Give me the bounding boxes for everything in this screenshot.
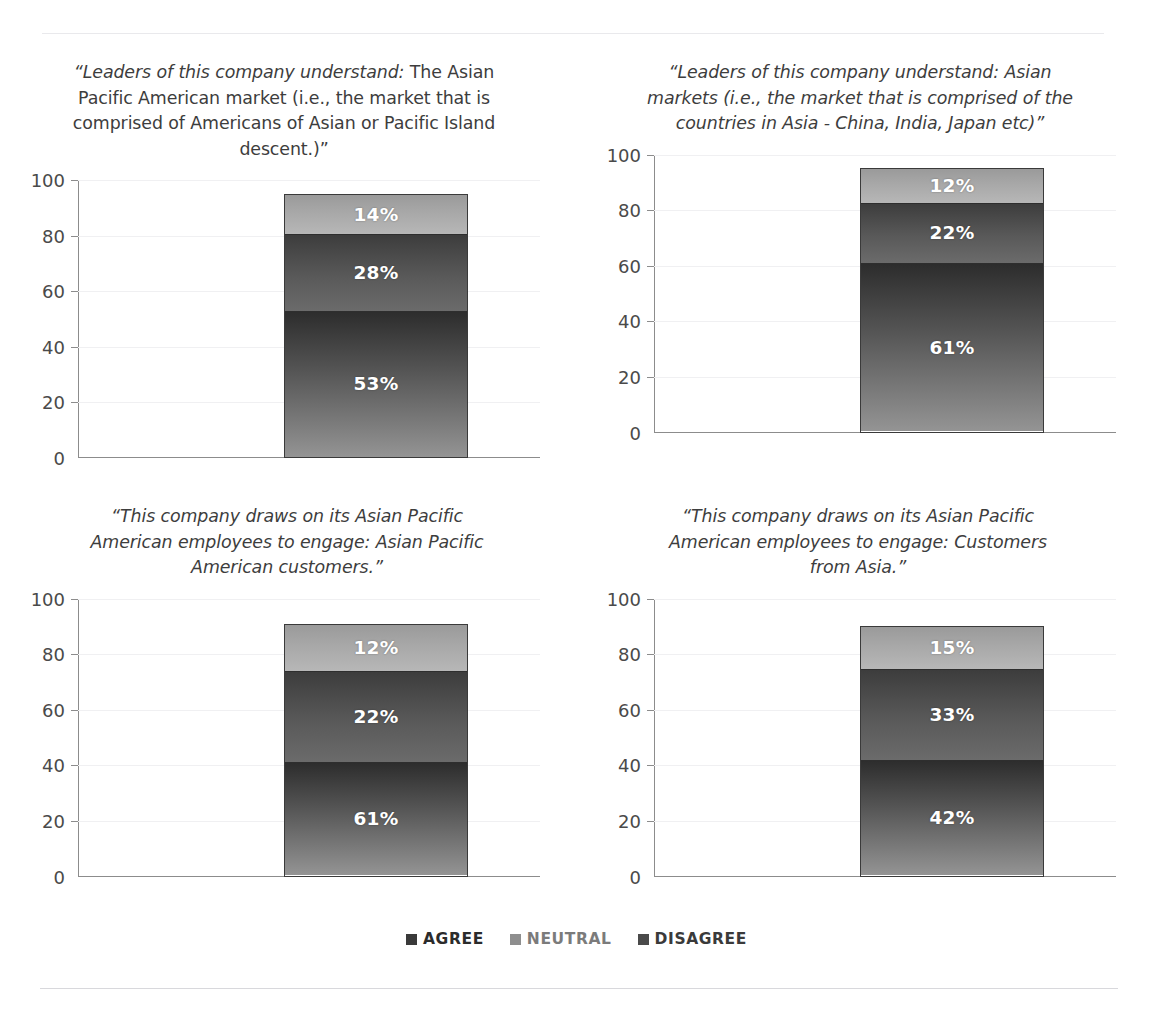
segment-divider [285, 311, 468, 312]
gridline-100 [654, 599, 1116, 600]
chart-title-1: “Leaders of this company understand: The… [0, 44, 576, 162]
legend-swatch-agree-icon [406, 934, 417, 945]
bar-segment-disagree-4[interactable]: 33% [861, 669, 1044, 760]
chart-row-top: “Leaders of this company understand: The… [0, 44, 1153, 490]
bar-segment-label-agree-3: 61% [354, 808, 399, 829]
y-axis-line-3 [78, 599, 79, 877]
bar-segment-label-neutral-3: 12% [354, 637, 399, 658]
bar-segment-label-disagree-2: 22% [930, 222, 975, 243]
plot-area-3: 100 80 60 40 20 0 12% 22% 61% [0, 589, 576, 909]
bar-segment-neutral-1[interactable]: 14% [285, 195, 468, 234]
ytick-40 [71, 765, 78, 766]
ytick-label-20: 20 [42, 392, 65, 413]
ytick-20 [647, 821, 654, 822]
ytick-20 [71, 821, 78, 822]
ytick-label-0: 0 [54, 448, 65, 469]
bar-segment-neutral-4[interactable]: 15% [861, 627, 1044, 668]
chart-legend: AGREE NEUTRAL DISAGREE [0, 930, 1153, 948]
ytick-label-20: 20 [42, 810, 65, 831]
legend-swatch-disagree-icon [638, 934, 649, 945]
bar-segment-label-disagree-4: 33% [930, 704, 975, 725]
ytick-label-100: 100 [31, 588, 65, 609]
legend-item-neutral[interactable]: NEUTRAL [510, 930, 612, 948]
ytick-label-100: 100 [31, 170, 65, 191]
plot-area-4: 100 80 60 40 20 0 15% 33% 42% [576, 589, 1152, 909]
legend-item-disagree[interactable]: DISAGREE [638, 930, 747, 948]
ytick-80 [647, 210, 654, 211]
ytick-label-40: 40 [42, 755, 65, 776]
segment-divider [861, 760, 1044, 761]
y-axis-line-1 [78, 180, 79, 458]
stacked-bar-2[interactable]: 12% 22% 61% [860, 168, 1045, 432]
bar-segment-agree-2[interactable]: 61% [861, 263, 1044, 431]
ytick-20 [647, 377, 654, 378]
plot-inner-3: 100 80 60 40 20 0 12% 22% 61% [78, 599, 540, 877]
ytick-80 [71, 654, 78, 655]
ytick-100 [71, 599, 78, 600]
ytick-100 [647, 155, 654, 156]
ytick-label-80: 80 [618, 644, 641, 665]
bar-segment-label-agree-1: 53% [354, 373, 399, 394]
bar-segment-agree-3[interactable]: 61% [285, 762, 468, 875]
ytick-60 [71, 291, 78, 292]
ytick-60 [647, 266, 654, 267]
ytick-40 [647, 765, 654, 766]
legend-label-agree: AGREE [423, 930, 484, 948]
plot-area-1: 100 80 60 40 20 0 14% 28% 53% [0, 170, 576, 490]
ytick-40 [71, 347, 78, 348]
bar-segment-disagree-3[interactable]: 22% [285, 671, 468, 762]
bar-segment-label-agree-2: 61% [930, 337, 975, 358]
y-axis-line-2 [654, 155, 655, 433]
plot-inner-1: 100 80 60 40 20 0 14% 28% 53% [78, 180, 540, 458]
bar-segment-neutral-2[interactable]: 12% [861, 169, 1044, 202]
chart-panel-3: “This company draws on its Asian Pacific… [0, 490, 576, 909]
bar-segment-label-neutral-2: 12% [930, 175, 975, 196]
bottom-rule [40, 988, 1118, 989]
stacked-bar-4[interactable]: 15% 33% 42% [860, 626, 1045, 876]
bar-segment-label-disagree-3: 22% [354, 706, 399, 727]
ytick-label-60: 60 [42, 699, 65, 720]
gridline-100 [78, 180, 540, 181]
legend-label-neutral: NEUTRAL [527, 930, 612, 948]
chart-grid: “Leaders of this company understand: The… [0, 44, 1153, 909]
survey-chart-page: “Leaders of this company understand: The… [0, 0, 1153, 1021]
chart-title-4: “This company draws on its Asian Pacific… [576, 490, 1152, 581]
bar-segment-neutral-3[interactable]: 12% [285, 625, 468, 672]
gridline-100 [78, 599, 540, 600]
segment-divider [861, 263, 1044, 264]
y-axis-line-4 [654, 599, 655, 877]
ytick-60 [71, 710, 78, 711]
ytick-20 [71, 402, 78, 403]
bar-segment-label-agree-4: 42% [930, 807, 975, 828]
segment-divider [285, 234, 468, 235]
ytick-40 [647, 321, 654, 322]
ytick-label-80: 80 [618, 200, 641, 221]
legend-swatch-neutral-icon [510, 934, 521, 945]
chart-row-bottom: “This company draws on its Asian Pacific… [0, 490, 1153, 909]
bar-segment-disagree-1[interactable]: 28% [285, 234, 468, 311]
ytick-100 [71, 180, 78, 181]
bar-segment-agree-1[interactable]: 53% [285, 311, 468, 457]
bar-segment-label-disagree-1: 28% [354, 262, 399, 283]
chart-panel-1: “Leaders of this company understand: The… [0, 44, 576, 490]
top-rule [42, 33, 1104, 34]
legend-item-agree[interactable]: AGREE [406, 930, 484, 948]
ytick-label-100: 100 [607, 588, 641, 609]
segment-divider [861, 669, 1044, 670]
ytick-80 [71, 236, 78, 237]
bar-segment-agree-4[interactable]: 42% [861, 760, 1044, 876]
ytick-label-0: 0 [630, 422, 641, 443]
segment-divider [861, 203, 1044, 204]
segment-divider [285, 671, 468, 672]
ytick-label-0: 0 [630, 866, 641, 887]
ytick-label-60: 60 [42, 281, 65, 302]
ytick-100 [647, 599, 654, 600]
ytick-label-80: 80 [42, 644, 65, 665]
plot-area-2: 100 80 60 40 20 0 12% 22% 61% [576, 145, 1152, 465]
bar-segment-disagree-2[interactable]: 22% [861, 203, 1044, 264]
stacked-bar-3[interactable]: 12% 22% 61% [284, 624, 469, 877]
stacked-bar-1[interactable]: 14% 28% 53% [284, 194, 469, 458]
ytick-label-60: 60 [618, 699, 641, 720]
legend-label-disagree: DISAGREE [655, 930, 747, 948]
gridline-100 [654, 155, 1116, 156]
